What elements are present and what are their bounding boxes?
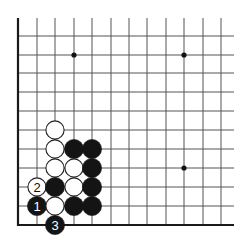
black-stone-1: 1 xyxy=(27,196,46,215)
move-number-label: 1 xyxy=(33,199,40,214)
black-stone xyxy=(82,177,101,196)
white-stone xyxy=(65,178,83,196)
move-number-label: 3 xyxy=(51,218,58,233)
white-stone xyxy=(46,121,64,139)
black-stone-3: 3 xyxy=(45,215,64,234)
black-stone xyxy=(82,139,101,158)
move-number-label: 2 xyxy=(33,180,40,195)
star-point-icon xyxy=(181,52,186,57)
white-stone xyxy=(46,197,64,215)
black-stone xyxy=(64,139,83,158)
black-stone xyxy=(64,196,83,215)
white-stone xyxy=(65,159,83,177)
white-stone-2: 2 xyxy=(28,178,46,196)
black-stone xyxy=(45,177,64,196)
black-stone xyxy=(82,158,101,177)
go-board: 213 xyxy=(0,0,251,240)
star-point-icon xyxy=(181,165,186,170)
stones: 213 xyxy=(27,121,101,235)
white-stone xyxy=(46,140,64,158)
black-stone xyxy=(82,196,101,215)
white-stone xyxy=(46,159,64,177)
star-point-icon xyxy=(71,52,76,57)
